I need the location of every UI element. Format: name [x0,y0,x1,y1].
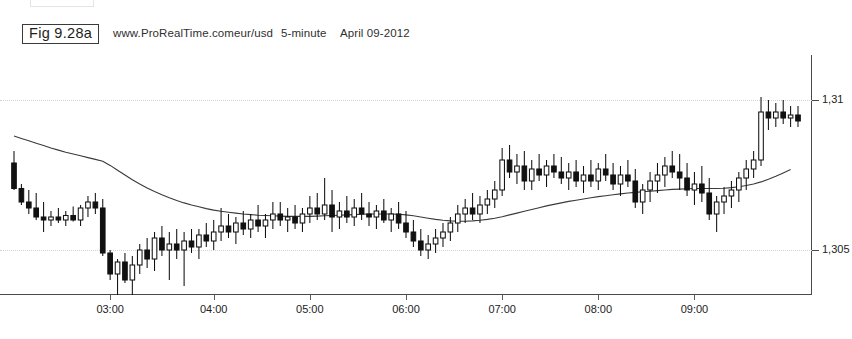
x-axis-label: 06:00 [392,303,420,315]
candle-body-down [626,175,631,181]
candle [685,163,690,196]
candle [744,160,749,190]
candle-body-up [774,112,779,118]
candle [507,145,512,178]
candle-body-up [197,235,202,247]
candle-body-down [470,208,475,214]
candle [448,217,453,241]
candle-body-up [115,262,120,274]
candle [34,193,39,220]
candle [766,100,771,130]
candle [49,211,54,226]
candle [640,184,645,214]
candle-body-up [596,169,601,181]
candle-body-up [529,169,534,181]
caption-instrument: eur/usd [234,27,273,39]
candle [108,250,113,280]
candle [648,172,653,202]
x-axis-label: 09:00 [681,303,709,315]
x-tick-mark [406,295,407,300]
candle [722,187,727,214]
candle-body-up [234,223,239,232]
candle [618,166,623,196]
candle-body-down [71,216,76,221]
candle [12,151,17,190]
candle-body-up [581,175,586,181]
candle-body-up [167,244,172,250]
candle [293,205,298,229]
candle [478,196,483,223]
y-axis-label: 1,305 [822,243,850,255]
candle-body-up [455,214,460,223]
candle-body-down [330,205,335,217]
candle [367,202,372,226]
candle-body-up [337,211,342,217]
candle [271,202,276,229]
candle [396,202,401,229]
candle-body-down [603,169,608,175]
candle [781,100,786,124]
candle [603,154,608,181]
candle-body-up [485,199,490,205]
candle-body-up [544,166,549,175]
figure-caption-row: Fig 9.28a www.ProRealTime.com eur/usd 5-… [0,24,852,46]
candle [41,202,46,232]
candle-body-down [707,193,712,214]
candle-body-up [478,205,483,214]
candle [93,193,98,214]
candle [626,160,631,187]
candle [559,157,564,184]
candle [589,160,594,187]
candle [411,220,416,247]
scan-artifact-top [30,0,94,7]
candle [234,217,239,244]
candle [774,103,779,127]
x-tick-mark [694,295,695,300]
candle [663,157,668,187]
candle-body-down [552,166,557,172]
candle-body-down [611,175,616,184]
candle-body-up [515,166,520,172]
candle-body-down [700,184,705,193]
candle-body-down [537,169,542,175]
x-tick-mark [598,295,599,300]
y-axis-label: 1,31 [822,93,843,105]
x-axis-label: 04:00 [200,303,228,315]
candle [197,229,202,259]
candle [700,166,705,202]
candle [455,205,460,232]
candle-body-up [729,190,734,196]
candle-body-down [589,175,594,181]
candle [352,199,357,226]
candle [56,208,61,223]
candle [174,229,179,259]
candle [433,229,438,253]
candle [485,190,490,214]
candle-body-up [285,217,290,220]
candle [382,199,387,223]
candle-body-up [374,211,379,217]
candle [419,229,424,256]
candle-body-up [566,172,571,178]
candle-body-up [63,216,68,221]
candle [670,151,675,178]
candle [152,232,157,271]
candle-body-up [788,115,793,118]
candle [751,151,756,178]
candle-body-up [618,175,623,184]
candle [248,214,253,238]
candle [86,196,91,217]
candle-body-down [382,211,387,220]
candle [241,211,246,235]
candle-body-down [404,223,409,232]
candle [226,214,231,238]
candle-body-up [737,178,742,190]
candle-body-down [278,214,283,220]
x-tick-mark [214,295,215,300]
candle [63,211,68,226]
candle-body-down [19,189,24,203]
candle-body-down [633,181,638,202]
candle [182,232,187,286]
candle-body-up [322,205,327,214]
candle-body-down [507,160,512,172]
